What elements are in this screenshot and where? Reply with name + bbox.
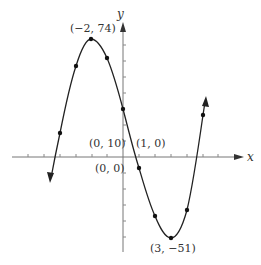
data-point [137, 166, 141, 170]
y-axis-arrow-icon [120, 22, 126, 32]
x-axis-arrow-icon [234, 154, 244, 160]
x-scale-label: (1, 0) [136, 137, 166, 150]
x-axis: x [12, 150, 254, 164]
data-point-max [89, 37, 93, 41]
max-point-label: (−2, 74) [70, 22, 116, 35]
data-point [201, 113, 205, 117]
y-axis: y [116, 7, 126, 252]
origin-label: (0, 0) [95, 162, 125, 175]
y-axis-label: y [116, 7, 124, 21]
data-point [74, 64, 78, 68]
curve-right-arrow-icon [202, 96, 209, 107]
data-point [58, 131, 62, 135]
y-scale-label: (0, 10) [89, 137, 126, 150]
curve-left-arrow-icon [47, 172, 54, 183]
x-axis-label: x [247, 150, 254, 164]
cubic-curve [51, 39, 205, 238]
data-point-min [169, 236, 173, 240]
data-point-y-intercept [121, 107, 125, 111]
cubic-graph: x y (−2 [0, 0, 261, 265]
data-point [105, 56, 109, 60]
data-point [185, 208, 189, 212]
data-point [153, 214, 157, 218]
data-points [58, 37, 205, 240]
min-point-label: (3, −51) [150, 242, 196, 255]
